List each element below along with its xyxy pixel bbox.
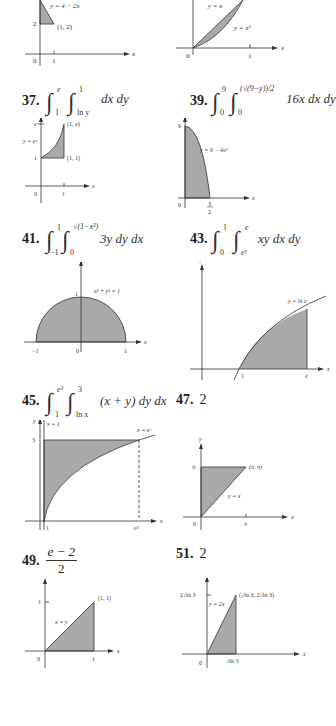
- problem-39: 39. ∫ 9 0 ∫ (√(9−y))/2 0 16x dx dy: [190, 84, 336, 122]
- problem-number: 47.: [176, 392, 194, 407]
- svg-text:(√ln 3, 2√ln 3): (√ln 3, 2√ln 3): [239, 592, 274, 599]
- x-arrow-icon: [151, 519, 157, 523]
- graph-43: y y = ln x 1 e x: [178, 262, 336, 382]
- x-arrow-icon: [244, 196, 250, 200]
- x-arrow-icon: [136, 340, 142, 344]
- svg-text:x = eʸ: x = eʸ: [136, 427, 151, 433]
- svg-text:0: 0: [37, 656, 40, 662]
- svg-text:e³: e³: [134, 525, 139, 530]
- svg-text:∫: ∫: [210, 227, 220, 255]
- numerator: e − 2: [46, 544, 78, 561]
- graph-36: y = x y = x² 0 1 x: [168, 0, 336, 80]
- x-arrow-icon: [108, 649, 114, 653]
- svg-text:x: x: [302, 651, 306, 657]
- problem-number: 51.: [176, 546, 194, 561]
- svg-text:1: 1: [124, 348, 127, 354]
- curve-label: y = x: [207, 2, 223, 10]
- svg-text:∫: ∫: [44, 389, 54, 417]
- svg-text:0: 0: [199, 660, 202, 666]
- svg-text:x: x: [143, 339, 147, 345]
- x-axis-label: x: [131, 50, 136, 58]
- svg-text:1: 1: [57, 223, 61, 232]
- svg-text:y = ln x: y = ln x: [287, 298, 307, 304]
- svg-text:0: 0: [238, 108, 242, 117]
- problem-37: 37. ∫ e 1 ∫ 1 ln y dx dy: [22, 84, 162, 122]
- svg-text:ln x: ln x: [76, 410, 88, 419]
- svg-text:x: x: [326, 366, 330, 372]
- problem-49: 49. e − 2 2: [22, 544, 77, 577]
- origin-label: 0: [186, 52, 190, 60]
- svg-text:x² + y² = 1: x² + y² = 1: [93, 288, 120, 294]
- shaded-region: [41, 124, 64, 158]
- svg-text:e: e: [245, 223, 249, 232]
- shaded-region: [44, 440, 139, 522]
- svg-text:0: 0: [76, 348, 79, 354]
- svg-text:1: 1: [75, 291, 78, 297]
- svg-text:9: 9: [178, 123, 181, 129]
- svg-text:1: 1: [34, 155, 37, 161]
- denominator: 2: [46, 561, 78, 577]
- graph-51: y 2√ln 3 (√ln 3, 2√ln 3) y = 2x 0 √ln 3 …: [170, 578, 336, 670]
- svg-text:2√ln 3: 2√ln 3: [180, 592, 195, 598]
- integral-37: 37. ∫ e 1 ∫ 1 ln y dx dy: [22, 84, 162, 118]
- svg-text:x: x: [290, 514, 294, 520]
- svg-text:1: 1: [79, 85, 83, 94]
- svg-text:1: 1: [92, 656, 95, 662]
- svg-text:9: 9: [222, 85, 226, 94]
- tick-label: 1: [248, 52, 252, 60]
- svg-text:0: 0: [220, 108, 224, 117]
- graph-49: y 1 (1, 1) x = y 0 1 x: [20, 578, 160, 670]
- integral-43: 43. ∫ 1 0 ∫ e eʸ xy dx dy: [190, 222, 336, 258]
- x-arrow-icon: [282, 515, 288, 519]
- integrand: (x + y) dy dx: [100, 393, 167, 408]
- answer: 2: [200, 546, 207, 561]
- svg-text:1: 1: [38, 599, 41, 605]
- problem-43: 43. ∫ 1 0 ∫ e eʸ xy dx dy: [190, 222, 336, 262]
- svg-text:∫: ∫: [44, 89, 54, 117]
- problem-number: 39.: [190, 93, 208, 108]
- svg-text:−1: −1: [50, 248, 59, 257]
- svg-text:π: π: [192, 464, 196, 470]
- svg-text:2: 2: [208, 209, 211, 215]
- problem-number: 37.: [22, 93, 40, 108]
- svg-text:0: 0: [34, 191, 37, 197]
- svg-text:3: 3: [208, 201, 211, 207]
- svg-text:y = 9 − 4x²: y = 9 − 4x²: [199, 147, 227, 153]
- x-arrow-icon: [294, 652, 300, 656]
- problem-number: 45.: [22, 393, 40, 408]
- x-arrow-icon: [84, 184, 90, 188]
- tick-label: 2: [33, 20, 37, 28]
- svg-text:∫: ∫: [210, 89, 220, 117]
- svg-text:e: e: [57, 85, 61, 94]
- x-arrow-icon: [272, 46, 278, 50]
- x-axis-label: x: [280, 44, 285, 52]
- problem-41: 41. ∫ 1 −1 ∫ √(1−x²) 0 3y dy dx: [22, 222, 168, 262]
- svg-text:x = 1: x = 1: [46, 421, 60, 427]
- svg-text:1: 1: [46, 525, 49, 530]
- svg-text:−1: −1: [32, 348, 38, 354]
- svg-text:∫: ∫: [231, 227, 241, 255]
- svg-text:(1, 1): (1, 1): [98, 595, 111, 602]
- svg-text:∫: ∫: [65, 389, 75, 417]
- svg-text:y: y: [199, 262, 203, 263]
- integral-41: 41. ∫ 1 −1 ∫ √(1−x²) 0 3y dy dx: [22, 222, 168, 258]
- curve-label: y = 4 − 2x: [49, 2, 81, 10]
- svg-text:(1, e): (1, e): [67, 121, 80, 128]
- graph-35: y = 4 − 2x (1, 2) 2 0 1 x: [0, 0, 168, 80]
- svg-text:π: π: [244, 521, 248, 527]
- svg-text:0: 0: [178, 202, 181, 208]
- svg-text:∫: ∫: [66, 89, 76, 117]
- point-label: (1, 2): [57, 23, 73, 31]
- svg-text:1: 1: [241, 373, 244, 379]
- svg-text:0: 0: [70, 248, 74, 257]
- svg-text:√ln 3: √ln 3: [226, 658, 238, 664]
- origin-label: 0: [33, 57, 37, 65]
- svg-text:0: 0: [193, 521, 196, 527]
- svg-text:e³: e³: [57, 385, 64, 394]
- integral-39: 39. ∫ 9 0 ∫ (√(9−y))/2 0 16x dx dy: [190, 84, 336, 118]
- svg-text:y = eˣ: y = eˣ: [22, 138, 37, 144]
- integral-45: 45. ∫ e³ 1 ∫ 3 ln x (x + y) dy dx: [22, 384, 168, 420]
- x-arrow-icon: [318, 367, 324, 371]
- svg-text:√(1−x²): √(1−x²): [73, 222, 98, 231]
- graph-39: y 9 y = 9 − 4x² 0 3 2 x: [178, 118, 336, 218]
